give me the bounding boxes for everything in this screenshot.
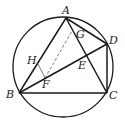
circumcircle (13, 17, 113, 117)
geometry-diagram: A B C D E F G H (0, 0, 125, 130)
label-G: G (76, 28, 85, 41)
label-B: B (5, 88, 14, 101)
label-E: E (77, 59, 86, 72)
segment-HF (37, 62, 45, 78)
segment-AD (66, 18, 107, 44)
label-C: C (109, 89, 118, 102)
label-F: F (41, 78, 50, 91)
label-A: A (61, 4, 70, 17)
diagram-svg: A B C D E F G H (0, 0, 125, 130)
label-H: H (26, 54, 37, 67)
label-D: D (108, 34, 118, 47)
